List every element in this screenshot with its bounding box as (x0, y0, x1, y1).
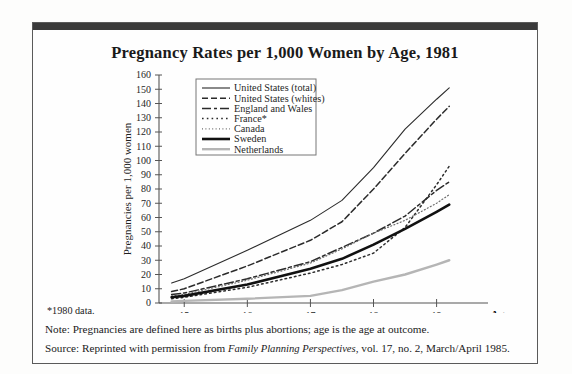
svg-text:160: 160 (136, 69, 151, 80)
line-chart: 0102030405060708090100110120130140150160… (33, 65, 539, 313)
printed-frame: Pregnancy Rates per 1,000 Women by Age, … (32, 22, 538, 364)
source-journal-name: Family Planning Perspectives (228, 343, 356, 354)
y-axis-ticks: 0102030405060708090100110120130140150160 (136, 69, 162, 308)
y-axis-title: Pregnancies per 1,000 women (121, 122, 133, 255)
note-definition: Note: Pregnancies are defined here as bi… (45, 320, 527, 338)
svg-text:100: 100 (136, 155, 151, 166)
series-line-4 (172, 195, 450, 296)
figure-notes: *1980 data. Note: Pregnancies are define… (45, 303, 527, 357)
plot-area: 0102030405060708090100110120130140150160… (33, 65, 539, 313)
svg-text:20: 20 (141, 269, 151, 280)
svg-text:10: 10 (141, 283, 151, 294)
source-prefix: Source: Reprinted with permission from (45, 342, 228, 354)
series-line-6 (172, 260, 450, 301)
svg-text:150: 150 (136, 84, 151, 95)
svg-text:70: 70 (141, 198, 151, 209)
legend-label-6: Netherlands (234, 144, 283, 155)
chart-title: Pregnancy Rates per 1,000 Women by Age, … (33, 43, 537, 63)
series-line-5 (172, 205, 450, 298)
svg-text:130: 130 (136, 112, 151, 123)
figure-container: Pregnancy Rates per 1,000 Women by Age, … (0, 0, 572, 374)
svg-text:90: 90 (141, 169, 151, 180)
svg-text:40: 40 (141, 240, 151, 251)
chart-legend: United States (total)United States (whit… (196, 79, 325, 155)
svg-text:Pregnancies per 1,000 women: Pregnancies per 1,000 women (121, 122, 133, 255)
svg-text:30: 30 (141, 255, 151, 266)
series-line-2 (172, 182, 450, 295)
source-credit: Source: Reprinted with permission from F… (45, 339, 527, 357)
svg-text:60: 60 (141, 212, 151, 223)
footnote-asterisk: *1980 data. (47, 303, 527, 320)
svg-text:140: 140 (136, 98, 151, 109)
svg-text:110: 110 (136, 141, 151, 152)
frame-top-band (33, 23, 537, 30)
svg-text:50: 50 (141, 226, 151, 237)
svg-text:80: 80 (141, 183, 151, 194)
source-suffix: , vol. 17, no. 2, March/April 1985. (356, 342, 510, 354)
series-line-3 (172, 166, 450, 299)
svg-text:120: 120 (136, 126, 151, 137)
